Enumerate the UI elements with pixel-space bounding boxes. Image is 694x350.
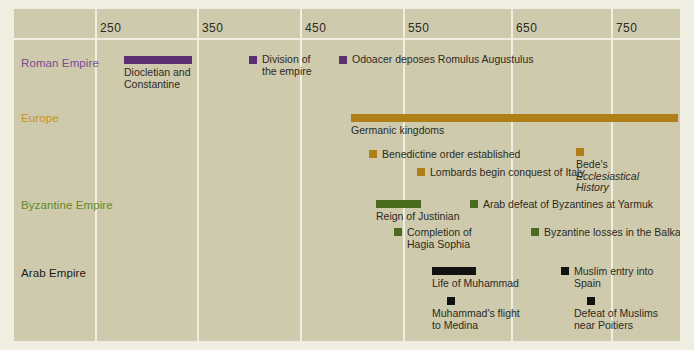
event-label-line-1: Germanic kingdoms xyxy=(351,125,444,137)
event-label-hijra-to-medina: Muhammad's flight to Medina xyxy=(432,308,520,331)
event-marker-yarmuk xyxy=(470,200,478,208)
event-label-line-1: Lombards begin conquest of Italy xyxy=(430,167,585,179)
event-label-line-1: Diocletian and xyxy=(124,67,191,79)
event-label-line-1: Reign of Justinian xyxy=(376,211,459,223)
axis-tick-350: 350 xyxy=(202,21,223,35)
event-label-muslim-entry-spain: Muslim entry into Spain xyxy=(574,266,653,289)
event-bar-germanic-kingdoms xyxy=(351,114,678,122)
event-label-lombards-conquest-italy: Lombards begin conquest of Italy xyxy=(430,167,585,179)
event-bar-life-of-muhammad xyxy=(432,267,476,275)
axis-tick-250: 250 xyxy=(100,21,121,35)
event-marker-defeat-near-poitiers xyxy=(587,297,595,305)
event-label-line-2: Hagia Sophia xyxy=(407,239,472,251)
event-label-line-1: Muhammad's flight xyxy=(432,308,520,320)
axis-tick-550: 550 xyxy=(408,21,429,35)
event-bar-reign-of-justinian xyxy=(376,200,421,208)
event-label-line-1: Defeat of Muslims xyxy=(574,308,658,320)
event-marker-division-of-empire xyxy=(249,56,257,64)
event-label-bede-ecclesiastical-history: Bede's Ecclesiastical History xyxy=(576,159,639,194)
axis-rule xyxy=(14,38,680,40)
lane-label-roman-empire: Roman Empire xyxy=(21,57,99,69)
event-label-line-1: Byzantine losses in the Balkans xyxy=(544,227,680,239)
lane-label-byzantine-empire: Byzantine Empire xyxy=(21,199,113,211)
event-label-defeat-near-poitiers: Defeat of Muslims near Poitiers xyxy=(574,308,658,331)
event-label-division-of-empire: Division of the empire xyxy=(262,54,312,77)
event-label-odoacer-deposes-romulus: Odoacer deposes Romulus Augustulus xyxy=(352,54,534,66)
event-label-diocletian-constantine: Diocletian and Constantine xyxy=(124,67,191,90)
event-label-line-1: Bede's xyxy=(576,159,639,171)
event-bar-diocletian-constantine xyxy=(124,56,192,64)
event-label-line-2: Spain xyxy=(574,278,653,290)
event-label-reign-of-justinian: Reign of Justinian xyxy=(376,211,459,223)
event-marker-benedictine-order xyxy=(369,150,377,158)
event-label-completion-hagia-sophia: Completion of Hagia Sophia xyxy=(407,227,472,250)
gridline-350 xyxy=(197,9,199,341)
timeline-panel: 250 350 450 550 650 750 Roman Empire Dio… xyxy=(14,9,680,341)
event-label-germanic-kingdoms: Germanic kingdoms xyxy=(351,125,444,137)
axis-tick-650: 650 xyxy=(516,21,537,35)
event-marker-byzantine-losses-balkans xyxy=(531,228,539,236)
event-label-line-2: near Poitiers xyxy=(574,320,658,332)
event-marker-completion-hagia-sophia xyxy=(394,228,402,236)
event-marker-odoacer-deposes-romulus xyxy=(339,56,347,64)
event-marker-muslim-entry-spain xyxy=(561,267,569,275)
event-label-benedictine-order: Benedictine order established xyxy=(382,149,520,161)
event-label-line-1: Life of Muhammad xyxy=(432,278,519,290)
event-label-byzantine-losses-balkans: Byzantine losses in the Balkans xyxy=(544,227,680,239)
event-label-line-3: History xyxy=(576,182,639,194)
axis-tick-750: 750 xyxy=(616,21,637,35)
event-marker-hijra-to-medina xyxy=(447,297,455,305)
event-marker-lombards-conquest-italy xyxy=(417,168,425,176)
timeline-chart: 250 350 450 550 650 750 Roman Empire Dio… xyxy=(0,0,694,350)
event-marker-bede-ecclesiastical-history xyxy=(576,148,584,156)
event-label-life-of-muhammad: Life of Muhammad xyxy=(432,278,519,290)
event-label-line-1: Completion of xyxy=(407,227,472,239)
event-label-yarmuk: Arab defeat of Byzantines at Yarmuk xyxy=(483,199,653,211)
event-label-line-1: Arab defeat of Byzantines at Yarmuk xyxy=(483,199,653,211)
event-label-line-1: Odoacer deposes Romulus Augustulus xyxy=(352,54,534,66)
lane-label-europe: Europe xyxy=(21,112,59,124)
event-label-line-2: Constantine xyxy=(124,79,191,91)
axis-tick-450: 450 xyxy=(305,21,326,35)
lane-label-arab-empire: Arab Empire xyxy=(21,267,86,279)
event-label-line-1: Division of xyxy=(262,54,312,66)
event-label-line-1: Muslim entry into xyxy=(574,266,653,278)
event-label-line-2: the empire xyxy=(262,66,312,78)
event-label-line-2: to Medina xyxy=(432,320,520,332)
event-label-line-1: Benedictine order established xyxy=(382,149,520,161)
